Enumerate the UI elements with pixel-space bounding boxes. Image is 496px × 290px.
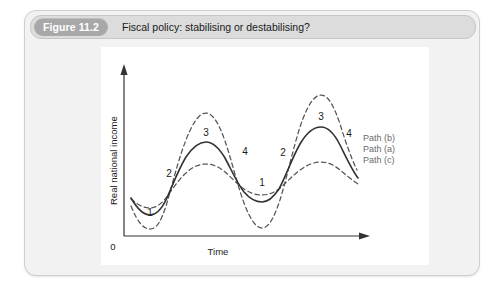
figure-caption: Fiscal policy: stabilising or destabilis… <box>122 21 310 33</box>
figure-card: Figure 11.2 Fiscal policy: stabilising o… <box>24 10 480 276</box>
figure-header: Figure 11.2 Fiscal policy: stabilising o… <box>30 15 476 39</box>
figure-number-badge: Figure 11.2 <box>34 18 108 36</box>
figure-screenshot: Figure 11.2 Fiscal policy: stabilising o… <box>0 0 496 290</box>
plot-panel <box>101 47 429 265</box>
